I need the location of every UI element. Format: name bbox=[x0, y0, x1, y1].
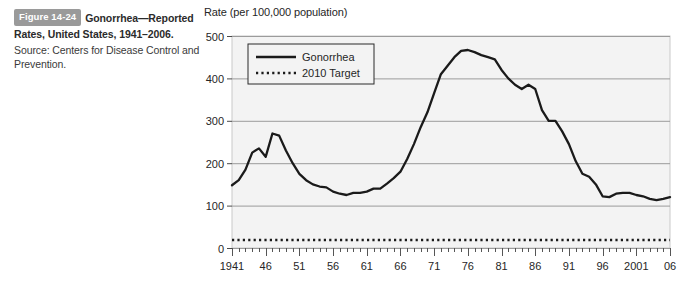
x-tick-label: 86 bbox=[529, 260, 541, 272]
x-tick-label: 91 bbox=[563, 260, 575, 272]
line-chart: 0100200300400500 19414651566166717681869… bbox=[204, 20, 686, 289]
figure-source-text: Source: Centers for Disease Control and … bbox=[14, 44, 200, 71]
y-axis-ticks: 0100200300400500 bbox=[206, 31, 232, 255]
x-axis-minor-ticks bbox=[233, 248, 671, 256]
y-tick-label: 100 bbox=[206, 200, 224, 212]
x-tick-label: 1941 bbox=[220, 260, 244, 272]
x-tick-label: 76 bbox=[462, 260, 474, 272]
figure-caption: Figure 14-24Gonorrhea—Reported Rates, Un… bbox=[14, 9, 200, 71]
figure-page: Figure 14-24Gonorrhea—Reported Rates, Un… bbox=[0, 0, 694, 295]
legend-label-2010-target: 2010 Target bbox=[302, 67, 360, 79]
y-tick-label: 400 bbox=[206, 73, 224, 85]
y-tick-label: 500 bbox=[206, 31, 224, 43]
y-tick-label: 200 bbox=[206, 158, 224, 170]
x-tick-label: 06 bbox=[664, 260, 676, 272]
figure-number-badge: Figure 14-24 bbox=[14, 9, 81, 26]
x-tick-label: 2001 bbox=[624, 260, 648, 272]
legend-label-gonorrhea: Gonorrhea bbox=[302, 51, 355, 63]
chart-legend: Gonorrhea2010 Target bbox=[248, 44, 374, 84]
x-axis-ticks: 19414651566166717681869196200106 bbox=[220, 260, 676, 272]
y-tick-label: 0 bbox=[218, 243, 224, 255]
x-tick-label: 71 bbox=[428, 260, 440, 272]
x-tick-label: 81 bbox=[495, 260, 507, 272]
chart-container: Rate (per 100,000 population) 0100200300… bbox=[204, 6, 686, 289]
x-tick-label: 51 bbox=[293, 260, 305, 272]
chart-axis-title: Rate (per 100,000 population) bbox=[204, 6, 347, 18]
figure-caption-line: Figure 14-24Gonorrhea—Reported Rates, Un… bbox=[14, 9, 200, 41]
x-tick-label: 96 bbox=[596, 260, 608, 272]
x-tick-label: 66 bbox=[394, 260, 406, 272]
y-tick-label: 300 bbox=[206, 115, 224, 127]
x-tick-label: 61 bbox=[361, 260, 373, 272]
x-tick-label: 46 bbox=[260, 260, 272, 272]
x-tick-label: 56 bbox=[327, 260, 339, 272]
